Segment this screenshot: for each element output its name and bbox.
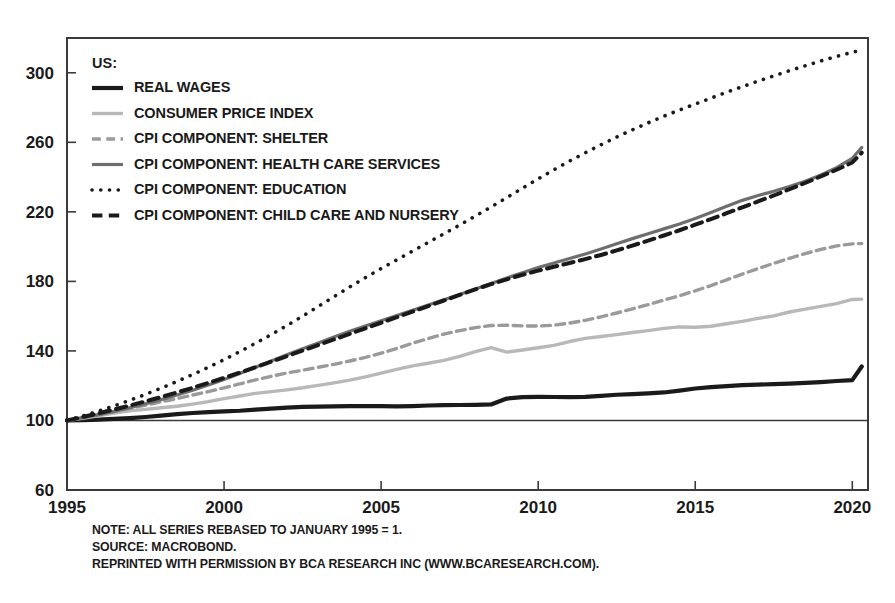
- y-axis: 60100140180220260300: [26, 64, 76, 500]
- x-tick-label: 2010: [519, 498, 557, 517]
- footnote-line-0: NOTE: ALL SERIES REBASED TO JANUARY 1995…: [92, 523, 402, 537]
- chart-container: 60100140180220260300 1995200020052010201…: [0, 0, 895, 603]
- series-line-2: [67, 243, 862, 420]
- legend-label-5: CPI COMPONENT: CHILD CARE AND NURSERY: [134, 207, 459, 223]
- y-tick-label: 140: [26, 342, 54, 361]
- x-tick-label: 1995: [48, 498, 86, 517]
- legend-label-3: CPI COMPONENT: HEALTH CARE SERVICES: [134, 156, 441, 172]
- series-line-1: [67, 299, 862, 420]
- footnote-line-1: SOURCE: MACROBOND.: [92, 540, 236, 554]
- x-tick-label: 2000: [205, 498, 243, 517]
- legend-label-0: REAL WAGES: [134, 79, 231, 95]
- legend-title: US:: [92, 55, 117, 71]
- legend-label-1: CONSUMER PRICE INDEX: [134, 105, 314, 121]
- y-tick-label: 100: [26, 411, 54, 430]
- line-chart: 60100140180220260300 1995200020052010201…: [0, 0, 895, 603]
- legend-label-4: CPI COMPONENT: EDUCATION: [134, 181, 346, 197]
- x-tick-label: 2005: [362, 498, 400, 517]
- y-tick-label: 220: [26, 203, 54, 222]
- footnote-line-2: REPRINTED WITH PERMISSION BY BCA RESEARC…: [92, 557, 599, 571]
- y-tick-label: 180: [26, 272, 54, 291]
- x-axis: 199520002005201020152020: [48, 481, 871, 517]
- legend-label-2: CPI COMPONENT: SHELTER: [134, 130, 329, 146]
- y-tick-label: 260: [26, 133, 54, 152]
- y-tick-label: 300: [26, 64, 54, 83]
- x-tick-label: 2015: [676, 498, 714, 517]
- legend: US:REAL WAGESCONSUMER PRICE INDEXCPI COM…: [92, 55, 459, 223]
- x-tick-label: 2020: [833, 498, 871, 517]
- footnotes: NOTE: ALL SERIES REBASED TO JANUARY 1995…: [92, 523, 599, 571]
